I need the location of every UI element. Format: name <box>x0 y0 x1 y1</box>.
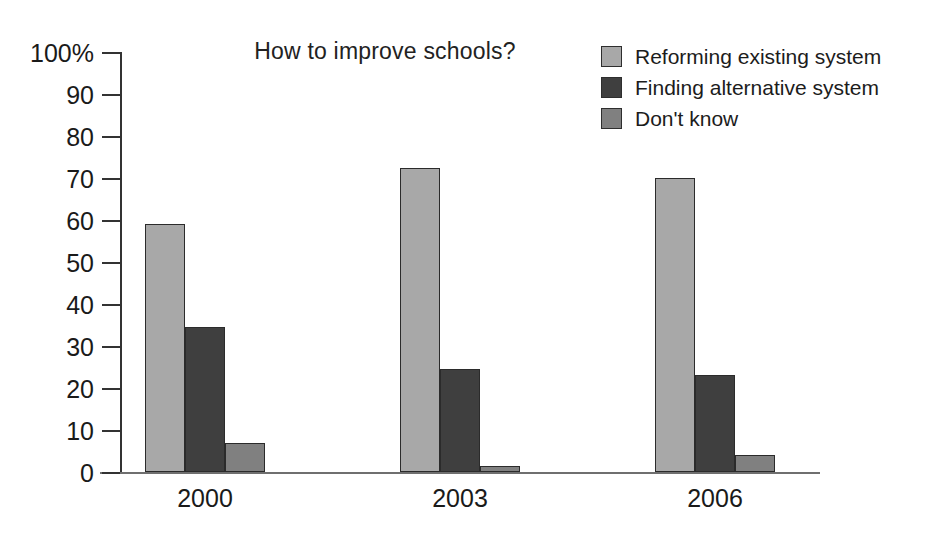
bar-group: 2003 <box>400 52 520 472</box>
y-tick-mark: 90 <box>102 94 120 96</box>
bar[interactable] <box>400 168 440 473</box>
y-tick-label: 10 <box>66 417 94 446</box>
y-tick-mark: 10 <box>102 430 120 432</box>
y-axis-line <box>120 52 122 472</box>
y-tick-label: 0 <box>80 459 94 488</box>
bar-chart: How to improve schools? Reforming existi… <box>0 0 945 533</box>
y-tick-mark: 0 <box>102 472 120 474</box>
y-tick-mark: 30 <box>102 346 120 348</box>
y-tick-mark: 50 <box>102 262 120 264</box>
y-tick-mark: 40 <box>102 304 120 306</box>
bar[interactable] <box>145 224 185 472</box>
y-tick-label: 70 <box>66 165 94 194</box>
bar[interactable] <box>225 443 265 472</box>
bar[interactable] <box>695 375 735 472</box>
y-tick-mark: 60 <box>102 220 120 222</box>
bar[interactable] <box>440 369 480 472</box>
y-tick-mark: 70 <box>102 178 120 180</box>
y-tick-mark: 100% <box>102 52 120 54</box>
y-tick-mark: 20 <box>102 388 120 390</box>
bar-group: 2006 <box>655 52 775 472</box>
y-tick-label: 40 <box>66 291 94 320</box>
bar-group: 2000 <box>145 52 265 472</box>
y-tick-mark: 80 <box>102 136 120 138</box>
y-tick-label: 20 <box>66 375 94 404</box>
bars <box>145 52 265 472</box>
y-tick-label: 50 <box>66 249 94 278</box>
x-axis-line <box>100 472 820 474</box>
bar[interactable] <box>185 327 225 472</box>
x-axis-category-label: 2006 <box>655 484 775 513</box>
bar[interactable] <box>655 178 695 472</box>
y-tick-label: 90 <box>66 81 94 110</box>
y-tick-label: 100% <box>30 39 94 68</box>
bars <box>655 52 775 472</box>
bar[interactable] <box>480 466 520 472</box>
bar[interactable] <box>735 455 775 472</box>
bars <box>400 52 520 472</box>
y-tick-label: 80 <box>66 123 94 152</box>
x-axis-category-label: 2000 <box>145 484 265 513</box>
plot-area: 100%9080706050403020100 200020032006 <box>120 52 820 472</box>
x-axis-category-label: 2003 <box>400 484 520 513</box>
y-tick-label: 30 <box>66 333 94 362</box>
y-tick-label: 60 <box>66 207 94 236</box>
